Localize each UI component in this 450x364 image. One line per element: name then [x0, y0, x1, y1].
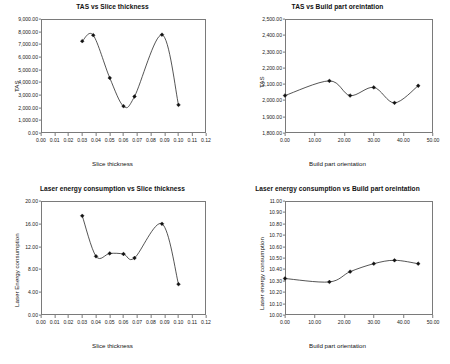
y-axis-label: Laser Energy consumption: [13, 233, 20, 307]
x-axis-tick: 0.12: [201, 319, 211, 325]
x-axis-tick: 0.05: [105, 319, 115, 325]
y-axis-tick: 0.00: [28, 130, 38, 136]
y-axis-tick: 9,000.00: [18, 16, 38, 22]
x-axis-tick: 30.00: [367, 137, 380, 143]
y-axis-tick: 10.80: [269, 221, 282, 227]
x-axis-tick: 20.00: [338, 319, 351, 325]
y-axis-tick: 10.60: [269, 244, 282, 250]
y-axis-tick: 20.00: [25, 198, 38, 204]
plot-area: 10.0010.1010.2010.3010.4010.5010.6010.70…: [285, 201, 433, 315]
x-axis-tick: 0.11: [187, 137, 197, 143]
x-axis-tick: 0.00: [280, 319, 290, 325]
x-axis-tick: 0.07: [132, 137, 142, 143]
y-axis-tick: 8.00: [28, 266, 38, 272]
y-axis-tick: 16.00: [25, 221, 38, 227]
x-axis-tick: 0.02: [64, 319, 74, 325]
data-point-marker: [416, 262, 420, 266]
x-axis-tick: 0.10: [174, 137, 184, 143]
data-series: [285, 201, 433, 315]
x-axis-tick: 0.01: [50, 137, 60, 143]
trend-line: [82, 33, 178, 107]
data-point-marker: [177, 103, 181, 107]
chart-title: Laser energy consumption vs Slice thickn…: [0, 185, 225, 192]
y-axis-tick: 2,500.00: [262, 16, 282, 22]
data-point-marker: [393, 101, 397, 105]
x-axis-tick: 10.00: [308, 137, 321, 143]
data-point-marker: [108, 252, 112, 256]
x-axis-tick: 0.11: [187, 319, 197, 325]
x-axis-tick: 0.10: [174, 319, 184, 325]
chart-panel-tas-vs-slice-thickness: TAS vs Slice thickness TAS 0.001,000.002…: [0, 0, 225, 182]
y-axis-tick: 6,000.00: [18, 54, 38, 60]
chart-panel-tas-vs-build-part-orientation: TAS vs Build part oreintation TAS 1,800.…: [225, 0, 450, 182]
y-axis-tick: 10.90: [269, 209, 282, 215]
trend-line: [285, 81, 418, 103]
data-point-marker: [372, 86, 376, 90]
x-axis-tick: 10.00: [308, 319, 321, 325]
plot-area: 0.001,000.002,000.003,000.004,000.005,00…: [41, 19, 206, 133]
y-axis-tick: 1,800.00: [262, 130, 282, 136]
y-axis-tick: 10.20: [269, 289, 282, 295]
x-axis-label: Build part orientation: [225, 342, 450, 349]
x-axis-tick: 0.08: [146, 319, 156, 325]
x-axis-tick: 0.02: [64, 137, 74, 143]
trend-line: [82, 216, 178, 284]
data-point-marker: [328, 280, 332, 284]
x-axis-tick: 0.04: [91, 137, 101, 143]
chart-title: TAS vs Build part oreintation: [225, 3, 450, 10]
x-axis-tick: 0.00: [36, 319, 46, 325]
data-point-marker: [328, 79, 332, 83]
x-axis-tick: 0.01: [50, 319, 60, 325]
y-axis-label: Laser energy consumption: [258, 237, 265, 310]
y-axis-tick: 3,000.00: [18, 92, 38, 98]
x-axis-tick: 0.00: [280, 137, 290, 143]
x-axis-label: Slice thickness: [0, 342, 225, 349]
data-point-marker: [108, 76, 112, 80]
x-axis-tick: 0.09: [160, 137, 170, 143]
x-axis-tick: 0.09: [160, 319, 170, 325]
data-point-marker: [348, 94, 352, 98]
y-axis-tick: 10.40: [269, 266, 282, 272]
y-axis-tick: 4,000.00: [18, 79, 38, 85]
data-series: [285, 19, 433, 133]
y-axis-tick: 2,300.00: [262, 49, 282, 55]
y-axis-tick: 2,400.00: [262, 32, 282, 38]
x-axis-tick: 50.00: [427, 137, 440, 143]
y-axis-tick: 4.00: [28, 289, 38, 295]
data-point-marker: [348, 270, 352, 274]
x-axis-tick: 0.05: [105, 137, 115, 143]
x-axis-tick: 20.00: [338, 137, 351, 143]
y-axis-tick: 10.50: [269, 255, 282, 261]
chart-panel-laser-energy-vs-slice-thickness: Laser energy consumption vs Slice thickn…: [0, 182, 225, 364]
x-axis-tick: 0.12: [201, 137, 211, 143]
chart-title: TAS vs Slice thickness: [0, 3, 225, 10]
plot-area: 0.004.008.0012.0016.0020.000.000.010.020…: [41, 201, 206, 315]
y-axis-tick: 1,000.00: [18, 117, 38, 123]
x-axis-tick: 0.04: [91, 319, 101, 325]
data-point-marker: [122, 252, 126, 256]
data-point-marker: [283, 94, 287, 98]
x-axis-tick: 0.08: [146, 137, 156, 143]
x-axis-tick: 50.00: [427, 319, 440, 325]
data-point-marker: [133, 95, 137, 99]
chart-title: Laser energy consumption vs Build part o…: [225, 185, 450, 192]
figure-sheet: TAS vs Slice thickness TAS 0.001,000.002…: [0, 0, 450, 364]
data-series: [41, 201, 206, 315]
data-series: [41, 19, 206, 133]
y-axis-tick: 11.00: [270, 198, 282, 204]
x-axis-label: Slice thickness: [0, 160, 225, 167]
y-axis-tick: 10.70: [269, 232, 282, 238]
y-axis-tick: 2,000.00: [262, 97, 282, 103]
data-point-marker: [393, 258, 397, 262]
y-axis-tick: 12.00: [25, 244, 38, 250]
y-axis-tick: 0.00: [28, 312, 38, 318]
x-axis-tick: 0.07: [132, 319, 142, 325]
x-axis-tick: 0.03: [77, 137, 87, 143]
y-axis-tick: 10.10: [269, 301, 282, 307]
y-axis-tick: 2,100.00: [262, 81, 282, 87]
x-axis-tick: 0.06: [119, 319, 129, 325]
x-axis-tick: 30.00: [367, 319, 380, 325]
plot-area: 1,800.001,900.002,000.002,100.002,200.00…: [285, 19, 433, 133]
data-point-marker: [372, 262, 376, 266]
y-axis-tick: 8,000.00: [18, 29, 38, 35]
